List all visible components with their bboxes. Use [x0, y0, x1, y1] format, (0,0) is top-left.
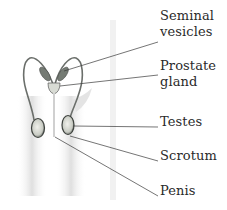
label-line: Testes	[160, 114, 202, 130]
label-line: Prostate	[160, 58, 216, 74]
label-testes: Testes	[160, 114, 202, 130]
label-scrotum: Scrotum	[160, 148, 217, 164]
label-line: Seminal	[160, 8, 214, 24]
label-line: vesicles	[160, 24, 214, 40]
label-line: Scrotum	[160, 148, 217, 164]
label-line: Penis	[160, 183, 196, 199]
seminal-vesicles-organ	[38, 65, 71, 82]
testes-organ	[32, 116, 75, 138]
label-prostate-gland: Prostate gland	[160, 58, 216, 90]
label-line: gland	[160, 74, 216, 90]
leader-line-prostate-gland	[60, 75, 158, 86]
label-seminal-vesicles: Seminal vesicles	[160, 8, 214, 40]
label-penis: Penis	[160, 183, 196, 199]
